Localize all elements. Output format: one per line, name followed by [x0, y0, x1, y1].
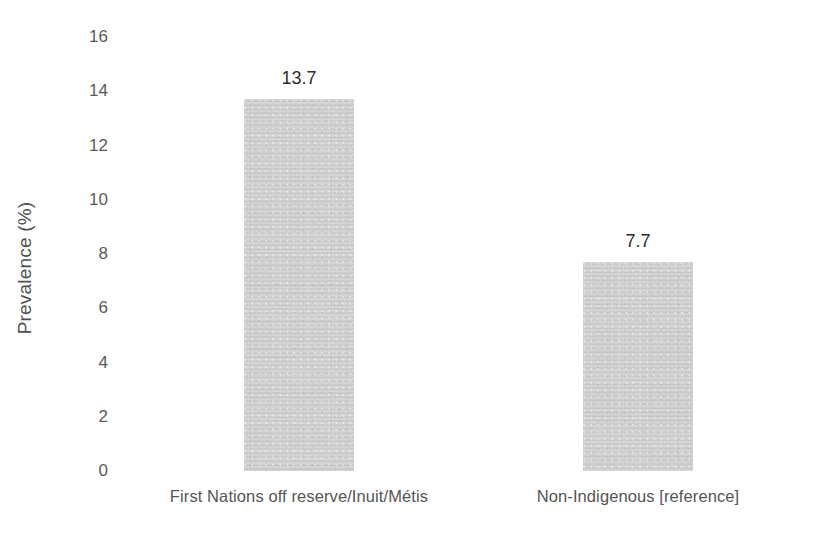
bar-value-label: 7.7	[625, 231, 650, 252]
bar-chart: Prevalence (%) 0246810121416 13.7First N…	[0, 0, 813, 536]
bar[interactable]	[244, 99, 354, 471]
plot-area: 13.7First Nations off reserve/Inuit/Méti…	[0, 0, 813, 536]
bar[interactable]	[583, 262, 693, 471]
x-axis-category-label: First Nations off reserve/Inuit/Métis	[170, 487, 428, 506]
x-axis-category-label: Non-Indigenous [reference]	[537, 487, 740, 506]
bar-value-label: 13.7	[281, 68, 316, 89]
